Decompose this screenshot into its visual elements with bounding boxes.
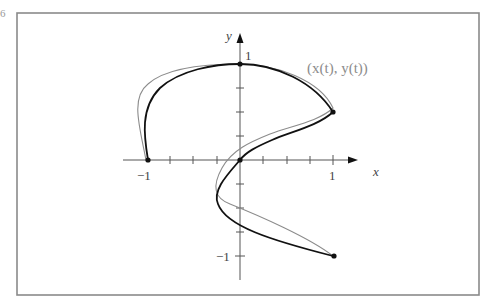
point-1-neg1 — [331, 253, 336, 258]
x-axis-label: x — [372, 164, 379, 179]
x-tick-label-neg1: −1 — [137, 168, 151, 183]
point-1-half — [330, 109, 335, 114]
curve-label: (x(t), y(t)) — [307, 60, 368, 77]
point-neg1-0 — [145, 157, 150, 162]
point-0-1 — [237, 61, 242, 66]
x-tick-label-1: 1 — [329, 168, 336, 183]
y-axis-label: y — [224, 28, 232, 43]
corner-mark: 6 — [0, 7, 6, 19]
parametric-curve-diagram: 6 x y — [0, 0, 494, 306]
point-origin — [237, 157, 242, 162]
figure: 6 x y — [0, 0, 494, 306]
x-axis-arrow-icon — [348, 157, 358, 164]
y-tick-label-neg1: −1 — [216, 249, 230, 264]
y-tick-label-1: 1 — [245, 48, 252, 63]
y-axis-arrow-icon — [237, 33, 244, 43]
